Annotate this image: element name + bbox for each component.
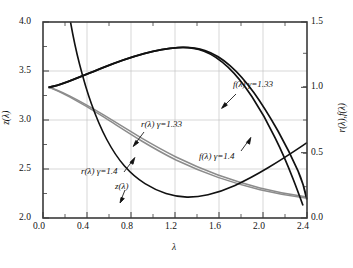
y-right-tick-label-2: 1.0 — [311, 82, 323, 92]
x-tick-label-2: 0.8 — [121, 222, 133, 232]
x-tick-label-4: 1.6 — [209, 222, 221, 232]
x-tick-label-6: 2.4 — [297, 222, 309, 232]
y-right-tick-label-3: 1.5 — [311, 17, 323, 27]
x-tick-label-3: 1.2 — [165, 222, 177, 232]
y-right-tick-label-0: 0.0 — [311, 213, 323, 223]
annotation-f-gamma-133: f(λ) γ=1.33 — [233, 80, 273, 89]
y-left-tick-label-3: 3.5 — [19, 66, 31, 76]
x-axis-label: λ — [172, 243, 176, 253]
y-left-tick-label-0: 2.0 — [19, 213, 31, 223]
annotation-r-gamma-133: r(λ) γ=1.33 — [141, 120, 182, 129]
x-tick-label-1: 0.4 — [77, 222, 89, 232]
y-left-tick-label-2: 3.0 — [19, 115, 31, 125]
x-tick-label-0: 0.0 — [33, 222, 45, 232]
y-axis-left-label: z(λ) — [2, 102, 12, 134]
figure-chart: 0.0 0.4 0.8 1.2 1.6 2.0 2.4 2.0 2.5 3.0 … — [0, 0, 353, 268]
y-axis-right-label: r(λ),f(λ) — [338, 91, 348, 145]
annotation-r-gamma-14: r(λ) γ=1.4 — [81, 167, 118, 176]
x-tick-label-5: 2.0 — [253, 222, 265, 232]
y-left-tick-label-1: 2.5 — [19, 164, 31, 174]
y-right-tick-label-1: 0.5 — [311, 148, 323, 158]
annotation-z: z(λ) — [115, 182, 128, 191]
annotation-f-gamma-14: f(λ) γ=1.4 — [199, 152, 235, 161]
y-left-tick-label-4: 4.0 — [19, 17, 31, 27]
